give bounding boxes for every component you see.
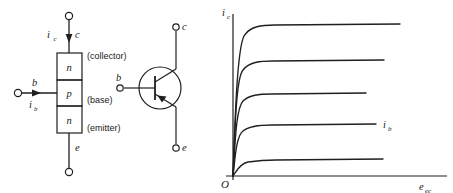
symbol-base-label: b xyxy=(116,72,121,83)
origin-label: O xyxy=(221,178,229,190)
collector-current-label-sub: c xyxy=(54,35,58,43)
x-axis-label: e xyxy=(419,181,424,192)
npn-transistor-symbol: b c e xyxy=(116,21,187,153)
transistor-figure: i c c n p n b i b e (collector) (base xyxy=(0,0,453,193)
note-emitter: (emitter) xyxy=(87,123,121,133)
collector-characteristics-graph: i c e ec O i b xyxy=(221,7,447,193)
symbol-emitter-terminal-circle xyxy=(173,145,179,151)
x-axis-label-sub: ec xyxy=(425,187,432,193)
npn-block-diagram: i c c n p n b i b e (collector) (base xyxy=(14,12,126,175)
collector-current-label: i xyxy=(47,29,50,40)
y-axis-label: i xyxy=(222,7,225,18)
figure-canvas: i c c n p n b i b e (collector) (base xyxy=(0,0,453,193)
emitter-arrowhead xyxy=(158,96,167,103)
characteristic-curve-4 xyxy=(233,124,376,176)
characteristic-curve-3 xyxy=(233,93,366,176)
collector-terminal-circle xyxy=(65,12,72,19)
region-label-n-top: n xyxy=(66,62,71,73)
curve-family-label-sub: b xyxy=(388,125,392,133)
region-label-p-mid: p xyxy=(65,88,71,99)
symbol-base-terminal-circle xyxy=(117,85,123,91)
base-terminal-label: b xyxy=(32,77,37,88)
note-base: (base) xyxy=(87,95,113,105)
characteristic-curve-1 xyxy=(233,24,400,176)
note-collector: (collector) xyxy=(87,51,127,61)
y-axis-label-sub: c xyxy=(227,13,231,21)
symbol-emitter-label: e xyxy=(182,142,187,153)
collector-current-arrowhead xyxy=(66,34,73,43)
base-current-label-sub: b xyxy=(34,105,38,113)
symbol-collector-terminal-circle xyxy=(173,24,179,30)
curve-family-label: i xyxy=(383,119,386,130)
symbol-collector-slant xyxy=(155,69,176,82)
base-terminal-circle xyxy=(14,89,21,96)
emitter-terminal-circle xyxy=(65,168,72,175)
symbol-collector-label: c xyxy=(182,21,187,32)
characteristic-curve-5 xyxy=(233,159,383,176)
base-current-label: i xyxy=(29,99,32,110)
base-current-arrowhead xyxy=(32,90,41,97)
region-label-n-bot: n xyxy=(66,115,71,126)
collector-terminal-label: c xyxy=(75,29,80,40)
emitter-terminal-label: e xyxy=(75,142,80,153)
